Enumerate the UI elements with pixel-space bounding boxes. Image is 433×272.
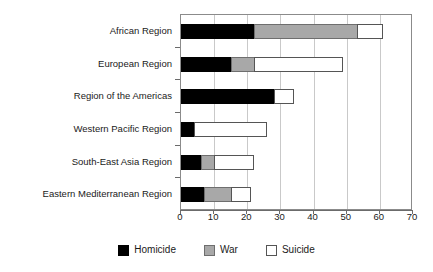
- bar-row: [181, 122, 267, 137]
- gridline-50: [347, 15, 348, 209]
- bar-segment-war: [231, 57, 254, 72]
- x-axis-tick-label: 0: [165, 211, 195, 223]
- legend-label: War: [220, 244, 238, 256]
- legend-label: Suicide: [282, 244, 315, 256]
- bar-segment-homicide: [181, 187, 204, 202]
- bar-segment-homicide: [181, 57, 231, 72]
- plot-area: [180, 14, 412, 210]
- x-axis-tick-label: 40: [298, 211, 328, 223]
- bar-row: [181, 89, 294, 104]
- gridline-30: [280, 15, 281, 209]
- y-axis-label: Eastern Mediterranean Region: [0, 188, 172, 199]
- gridline-40: [314, 15, 315, 209]
- y-axis-tick: [175, 79, 180, 80]
- y-axis-label: European Region: [0, 58, 172, 69]
- y-axis-tick: [175, 177, 180, 178]
- bar-segment-suicide: [194, 122, 267, 137]
- legend-item-war: War: [204, 244, 238, 256]
- bar-segment-war: [254, 24, 357, 39]
- legend-swatch-war-icon: [204, 245, 215, 256]
- legend-label: Homicide: [134, 244, 176, 256]
- bar-row: [181, 187, 251, 202]
- bar-segment-suicide: [214, 155, 254, 170]
- legend-item-suicide: Suicide: [266, 244, 315, 256]
- bar-segment-war: [201, 155, 214, 170]
- x-axis-tick-label: 50: [331, 211, 361, 223]
- y-axis-labels: African RegionEuropean RegionRegion of t…: [0, 14, 176, 210]
- bar-segment-suicide: [357, 24, 384, 39]
- gridline-60: [380, 15, 381, 209]
- x-axis-tick-label: 30: [264, 211, 294, 223]
- legend-swatch-homicide-icon: [118, 245, 129, 256]
- bar-row: [181, 24, 383, 39]
- chart-legend: HomicideWarSuicide: [0, 240, 433, 260]
- bar-segment-homicide: [181, 155, 201, 170]
- gridline-20: [247, 15, 248, 209]
- y-axis-tick: [175, 47, 180, 48]
- legend-swatch-suicide-icon: [266, 245, 277, 256]
- bar-segment-suicide: [231, 187, 251, 202]
- x-axis-tick-label: 70: [397, 211, 427, 223]
- y-axis-label: Western Pacific Region: [0, 123, 172, 134]
- bar-segment-homicide: [181, 122, 194, 137]
- bar-row: [181, 57, 343, 72]
- y-axis-label: Region of the Americas: [0, 90, 172, 101]
- bar-segment-homicide: [181, 89, 274, 104]
- bar-segment-homicide: [181, 24, 254, 39]
- bar-segment-suicide: [274, 89, 294, 104]
- legend-item-homicide: Homicide: [118, 244, 176, 256]
- y-axis-tick: [175, 145, 180, 146]
- x-axis-tick-label: 10: [198, 211, 228, 223]
- y-axis-tick: [175, 112, 180, 113]
- x-axis-tick-label: 20: [231, 211, 261, 223]
- y-axis-label: African Region: [0, 25, 172, 36]
- gridline-10: [214, 15, 215, 209]
- bar-segment-suicide: [254, 57, 343, 72]
- stacked-bar-chart: African RegionEuropean RegionRegion of t…: [0, 0, 433, 272]
- bar-row: [181, 155, 254, 170]
- y-axis-label: South-East Asia Region: [0, 156, 172, 167]
- bar-segment-war: [204, 187, 231, 202]
- x-axis-tick-label: 60: [364, 211, 394, 223]
